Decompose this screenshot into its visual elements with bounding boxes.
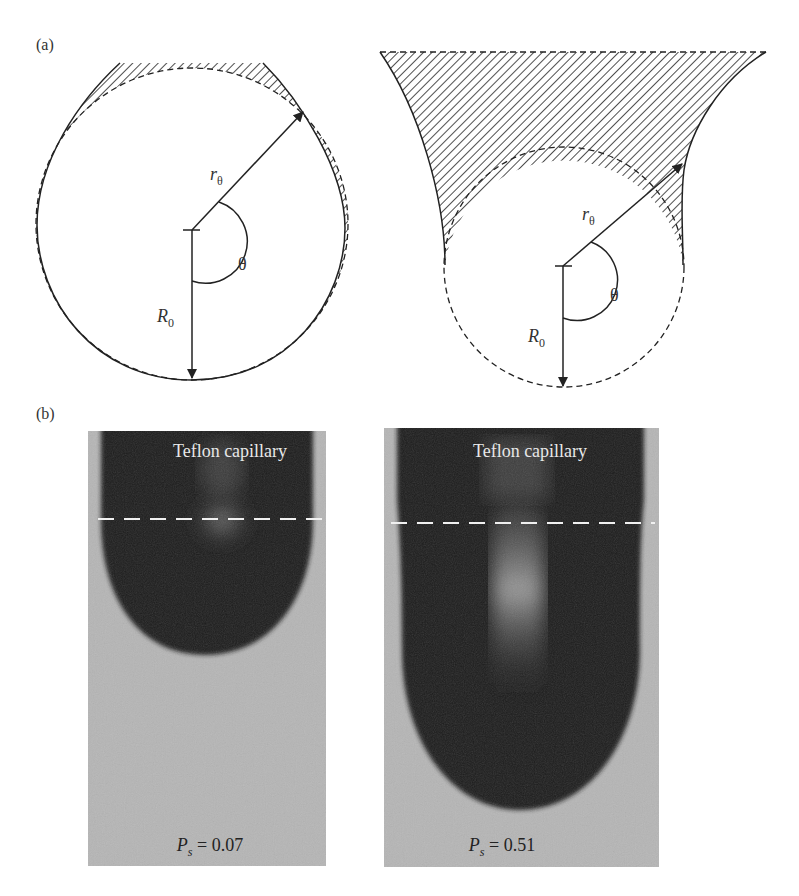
- left-r-theta-arrow: [192, 112, 303, 230]
- left-ps-subscript: s: [188, 845, 193, 859]
- panel-a-diagrams: rθ θ R0 rθ θ R0: [0, 0, 799, 400]
- panel-b-label: (b): [36, 405, 55, 423]
- left-ps-number: = 0.07: [197, 835, 243, 855]
- left-ps-symbol: P: [177, 835, 188, 855]
- right-theta-arc: [563, 242, 617, 320]
- left-drop-photo: [88, 425, 356, 866]
- svg-text:R0: R0: [156, 306, 174, 330]
- svg-text:θ: θ: [610, 285, 619, 305]
- right-r-theta-arrow: [563, 164, 682, 266]
- right-hatched-region: [380, 52, 766, 265]
- svg-text:R0: R0: [527, 326, 545, 350]
- right-drop-diagram: rθ θ R0: [380, 52, 766, 387]
- left-drop-diagram: rθ θ R0: [36, 63, 348, 380]
- left-photo-caption: Teflon capillary: [150, 441, 310, 462]
- right-photo-caption: Teflon capillary: [450, 441, 610, 462]
- svg-text:rθ: rθ: [210, 164, 223, 188]
- svg-text:θ: θ: [238, 254, 247, 274]
- svg-text:rθ: rθ: [582, 204, 595, 228]
- right-ps-subscript: s: [480, 845, 485, 859]
- right-drop-photo: [384, 420, 659, 867]
- right-ps-value: Ps = 0.51: [442, 835, 562, 860]
- left-ps-value: Ps = 0.07: [150, 835, 270, 860]
- right-ps-number: = 0.51: [489, 835, 535, 855]
- right-ps-symbol: P: [469, 835, 480, 855]
